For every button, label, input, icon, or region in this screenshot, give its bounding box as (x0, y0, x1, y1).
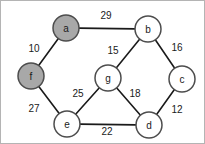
graph-diagram-figure: abcdefg 291015161218222527 (0, 0, 205, 144)
edge-weight-label: 22 (101, 126, 113, 137)
edge-weight-label: 15 (107, 45, 119, 56)
edge-weight-label: 25 (72, 88, 84, 99)
graph-node-b[interactable]: b (135, 16, 161, 42)
nodes-layer: abcdefg (18, 15, 195, 138)
node-label: a (63, 23, 69, 34)
graph-node-e[interactable]: e (54, 111, 80, 137)
node-label: c (180, 74, 185, 85)
graph-node-g[interactable]: g (95, 65, 121, 91)
edge-weight-label: 29 (100, 10, 112, 21)
graph-edge (39, 86, 59, 113)
edge-weight-label: 27 (28, 103, 40, 114)
node-label: f (30, 71, 33, 82)
graph-node-c[interactable]: c (169, 66, 195, 92)
edge-weight-label: 12 (171, 104, 183, 115)
graph-edge (79, 28, 135, 29)
graph-edge (116, 39, 140, 68)
node-label: g (105, 73, 111, 84)
graph-canvas: abcdefg 291015161218222527 (1, 1, 205, 144)
node-label: b (145, 24, 151, 35)
graph-node-a[interactable]: a (53, 15, 79, 41)
graph-node-d[interactable]: d (136, 112, 162, 138)
node-label: d (146, 120, 152, 131)
edge-weight-label: 18 (129, 88, 141, 99)
edge-weight-label: 16 (171, 42, 183, 53)
graph-node-f[interactable]: f (18, 63, 44, 89)
graph-edge (39, 39, 59, 66)
node-label: e (64, 119, 70, 130)
edge-weight-label: 10 (28, 43, 40, 54)
